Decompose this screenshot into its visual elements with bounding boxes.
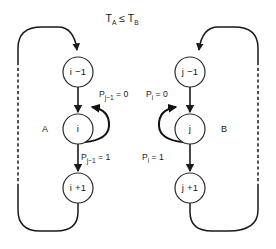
region-a-return-top-curve <box>18 27 77 62</box>
node-a-bottom-label: i +1 <box>70 182 86 193</box>
node-a-top-label: i −1 <box>70 66 86 77</box>
label-a-down-sub: j−1 <box>86 157 96 165</box>
svg-text:Pi = 1: Pi = 1 <box>142 152 164 164</box>
node-b-top[interactable]: j −1 <box>175 57 205 87</box>
label-b-down-value: = 1 <box>152 152 164 162</box>
node-b-bottom-label: j +1 <box>181 182 198 193</box>
node-a-top[interactable]: i −1 <box>63 57 93 87</box>
edge-label-b-down: Pi = 1 <box>142 152 164 164</box>
node-a-bottom[interactable]: i +1 <box>63 173 93 203</box>
state-transition-diagram: TA ≤ TB <box>0 0 276 249</box>
svg-text:Pi = 0: Pi = 0 <box>146 89 168 101</box>
svg-text:Pj−1 = 0: Pj−1 = 0 <box>99 89 129 102</box>
edge-label-a-selfloop: Pj−1 = 0 <box>99 89 129 102</box>
label-a-down-value: = 1 <box>98 152 110 162</box>
region-label-b: B <box>221 124 227 134</box>
edge-label-a-down: Pj−1 = 1 <box>81 152 111 165</box>
diagram-canvas: TA ≤ TB <box>0 0 276 249</box>
node-b-mid-label: j <box>188 123 191 134</box>
region-b-return-top-curve <box>199 27 258 62</box>
node-a-mid[interactable]: i <box>63 114 93 144</box>
svg-text:TA ≤ TB: TA ≤ TB <box>105 12 139 26</box>
figure-title: TA ≤ TB <box>105 12 139 26</box>
node-b-bottom[interactable]: j +1 <box>175 173 205 203</box>
label-a-selfloop-value: = 0 <box>116 89 128 99</box>
region-label-a: A <box>42 124 48 134</box>
label-b-selfloop-value: = 0 <box>156 89 168 99</box>
node-b-mid[interactable]: j <box>175 114 205 144</box>
svg-text:Pj−1 = 1: Pj−1 = 1 <box>81 152 111 165</box>
node-b-top-label: j −1 <box>181 66 198 77</box>
edge-label-b-selfloop: Pi = 0 <box>146 89 168 101</box>
title-rhs-sub: B <box>134 19 139 26</box>
node-a-mid-label: i <box>77 123 79 134</box>
label-a-selfloop-sub: j−1 <box>104 94 114 102</box>
